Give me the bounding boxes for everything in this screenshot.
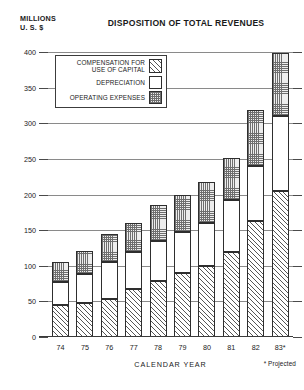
y-axis-tick (293, 123, 302, 124)
bar-segment-diagonal-hatch (223, 252, 240, 338)
y-axis-tick-label: 300 (10, 119, 36, 128)
bar-segment-stipple (247, 110, 264, 166)
bar-segment-stipple (223, 158, 240, 199)
y-axis-tick (39, 301, 48, 302)
y-axis-tick (293, 52, 302, 53)
bar-segment-diagonal-hatch (247, 221, 264, 337)
y-axis-tick-label: 100 (10, 261, 36, 270)
x-axis-title: CALENDAR YEAR (48, 360, 293, 369)
y-axis-tick-label: 0 (10, 333, 36, 342)
x-axis-tick-label: 81 (227, 343, 235, 352)
bar-segment-stipple (125, 223, 142, 252)
x-axis-tick-label: 74 (57, 343, 65, 352)
legend-item-compensation: COMPENSATION FOR USE OF CAPITAL (59, 59, 162, 74)
x-axis-tick-label: 83* (275, 343, 286, 352)
bar-segment-white (272, 116, 289, 191)
y-axis-tick (39, 52, 48, 53)
bar-segment-white (247, 166, 264, 221)
x-axis-tick-label: 80 (203, 343, 211, 352)
bar-segment-stipple (198, 182, 215, 223)
bar-segment-diagonal-hatch (76, 303, 93, 337)
y-axis-tick-label: 350 (10, 83, 36, 92)
diagonal-hatch-swatch-icon (149, 59, 162, 73)
projected-footnote: * Projected (264, 360, 296, 367)
legend-item-label: COMPENSATION FOR USE OF CAPITAL (77, 59, 145, 74)
bar-segment-stipple (52, 262, 69, 282)
y-axis-tick (293, 230, 302, 231)
y-axis-tick (39, 266, 48, 267)
x-axis-tick-label: 77 (130, 343, 138, 352)
y-axis-tick (293, 266, 302, 267)
y-axis-tick (39, 88, 48, 89)
y-axis-tick-label: 200 (10, 190, 36, 199)
y-axis-tick-label: 50 (10, 297, 36, 306)
bar-segment-diagonal-hatch (52, 305, 69, 337)
y-axis-tick-label: 150 (10, 226, 36, 235)
bar-segment-diagonal-hatch (272, 191, 289, 337)
legend-item-label: DEPRECIATION (96, 79, 145, 86)
y-axis-tick (293, 301, 302, 302)
y-axis-tick (39, 123, 48, 124)
bar-segment-white (223, 200, 240, 252)
bar-segment-diagonal-hatch (125, 289, 142, 337)
y-axis-unit-label: MILLIONS U. S. $ (20, 14, 56, 32)
legend-item-label: OPERATING EXPENSES (70, 94, 145, 101)
legend-item-operating-expenses: OPERATING EXPENSES (59, 91, 162, 104)
bar-segment-white (174, 232, 191, 273)
x-axis-tick-label: 79 (179, 343, 187, 352)
x-axis-baseline (39, 336, 293, 337)
bar-segment-white (198, 223, 215, 266)
y-axis-tick-label: 250 (10, 154, 36, 163)
y-axis-tick-label: 400 (10, 48, 36, 57)
bar-segment-white (150, 241, 167, 282)
bar-segment-stipple (150, 205, 167, 241)
bar-segment-diagonal-hatch (150, 281, 167, 337)
x-axis-tick-label: 76 (105, 343, 113, 352)
white-swatch-icon (149, 76, 162, 89)
chart-title: DISPOSITION OF TOTAL REVENUES (78, 18, 294, 28)
bar-segment-diagonal-hatch (101, 299, 118, 337)
bar-segment-stipple (101, 234, 118, 263)
x-axis-tick-label: 75 (81, 343, 89, 352)
bar-segment-white (101, 262, 118, 299)
y-axis-tick (293, 195, 302, 196)
y-axis-tick (39, 159, 48, 160)
x-axis-tick-label: 78 (154, 343, 162, 352)
y-axis-tick (39, 337, 48, 338)
bar-segment-stipple (76, 251, 93, 275)
stipple-swatch-icon (149, 91, 162, 104)
bar-segment-stipple (174, 195, 191, 232)
bar-segment-white (125, 252, 142, 289)
revenue-disposition-chart: MILLIONS U. S. $ DISPOSITION OF TOTAL RE… (0, 0, 304, 390)
x-axis-tick-labels: 74757677787980818283* (48, 343, 293, 355)
legend: COMPENSATION FOR USE OF CAPITAL DEPRECIA… (55, 55, 167, 108)
bar-segment-white (52, 282, 69, 305)
bar-segment-stipple (272, 53, 289, 116)
y-axis-tick (293, 159, 302, 160)
y-axis-tick (39, 195, 48, 196)
bar-segment-diagonal-hatch (174, 273, 191, 337)
y-axis-tick (293, 337, 302, 338)
x-axis-tick-label: 82 (252, 343, 260, 352)
bar-segment-diagonal-hatch (198, 266, 215, 337)
y-axis-tick (293, 88, 302, 89)
legend-item-depreciation: DEPRECIATION (59, 76, 162, 89)
y-axis-tick (39, 230, 48, 231)
bar-segment-white (76, 274, 93, 303)
